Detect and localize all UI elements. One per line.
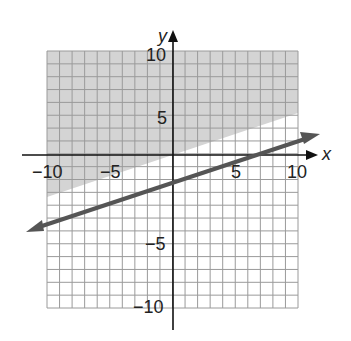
x-tick-10: 10 (287, 162, 307, 182)
x-tick-neg10: −10 (32, 162, 63, 182)
right-arrowhead-icon (300, 132, 320, 144)
y-axis-label: y (156, 26, 168, 46)
x-axis-label: x (321, 144, 332, 164)
x-axis-arrow-icon (306, 150, 318, 160)
y-tick-neg10: −10 (133, 297, 164, 317)
y-tick-5: 5 (157, 108, 167, 128)
y-axis-arrow-icon (168, 30, 178, 42)
x-tick-5: 5 (231, 162, 241, 182)
x-tick-neg5: −5 (100, 162, 121, 182)
y-tick-neg5: −5 (145, 234, 166, 254)
left-arrowhead-icon (26, 220, 44, 232)
y-tick-10: 10 (146, 45, 166, 65)
coordinate-plane: y x −10 −5 5 10 10 5 −5 −10 (0, 0, 351, 341)
